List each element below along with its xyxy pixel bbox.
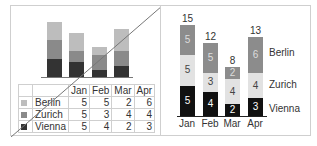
data-label: 5: [203, 52, 218, 63]
data-label: 2: [225, 67, 240, 78]
data-label: 4: [248, 80, 263, 91]
right-x-axis: [177, 116, 267, 117]
total-label: 8: [220, 55, 245, 66]
data-label: 3: [248, 101, 263, 112]
legend-label-berlin: Berlin: [269, 47, 295, 58]
data-label: 6: [248, 49, 263, 60]
strike-through-line: [11, 6, 162, 137]
total-label: 12: [198, 31, 223, 42]
data-label: 4: [225, 86, 240, 97]
data-label: 2: [225, 104, 240, 115]
data-label: 3: [203, 76, 218, 87]
data-label: 4: [203, 98, 218, 109]
data-label: 5: [180, 95, 195, 106]
legend-label-zurich: Zurich: [269, 79, 297, 90]
bad-chart-panel: Jan Feb Mar Apr Berlin 5 5 2 6 Zurich 5 …: [10, 5, 161, 136]
legend-label-vienna: Vienna: [269, 103, 300, 114]
total-label: 13: [243, 25, 268, 36]
x-tick-apr: Apr: [241, 118, 269, 129]
total-label: 15: [175, 13, 200, 24]
data-label: 5: [180, 34, 195, 45]
good-chart-panel: 5551543512242834613 Jan Feb Mar Apr Berl…: [160, 5, 311, 136]
data-label: 5: [180, 64, 195, 75]
